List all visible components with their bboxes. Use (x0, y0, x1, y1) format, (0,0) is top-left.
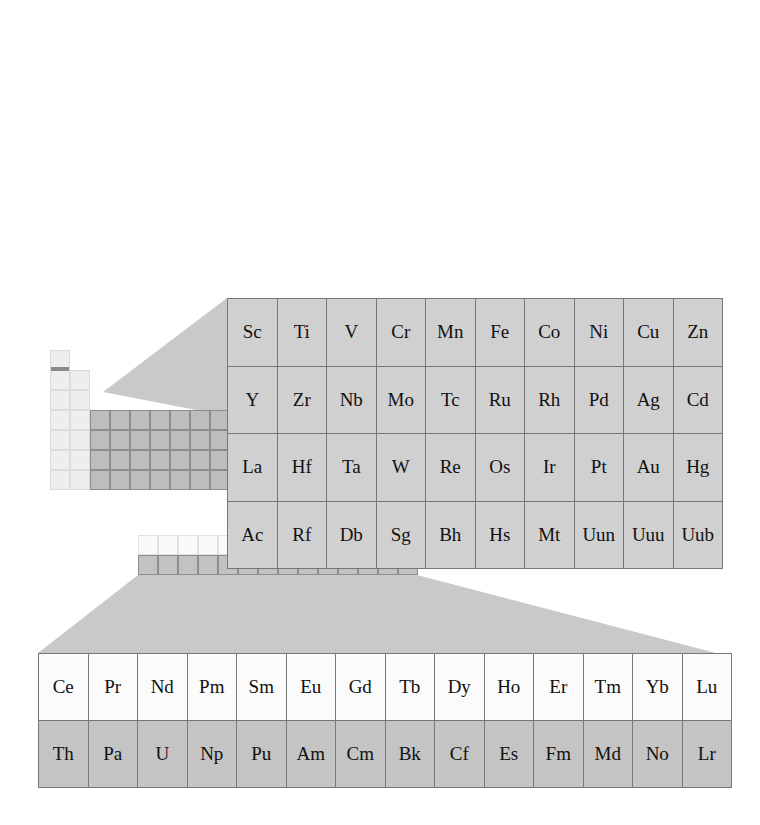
mini-cell-dblock[interactable] (130, 470, 150, 490)
detail_top-cell-ta[interactable]: Ta (327, 434, 377, 502)
detail_top-cell-sg[interactable]: Sg (376, 501, 426, 569)
mini-cell-actinide[interactable] (198, 555, 218, 575)
mini-cell-dblock[interactable] (170, 410, 190, 430)
detail_top-cell-rh[interactable]: Rh (525, 366, 575, 434)
mini-cell-dblock[interactable] (90, 430, 110, 450)
detail_bottom-cell-ho[interactable]: Ho (484, 654, 534, 721)
detail_bottom-cell-pa[interactable]: Pa (88, 721, 138, 788)
mini-cell-dblock[interactable] (90, 470, 110, 490)
mini-cell-actinide[interactable] (178, 555, 198, 575)
detail_bottom-cell-md[interactable]: Md (583, 721, 633, 788)
mini-cell-dblock[interactable] (190, 430, 210, 450)
detail_top-cell-uuu[interactable]: Uuu (624, 501, 674, 569)
detail_bottom-cell-lr[interactable]: Lr (682, 721, 732, 788)
mini-cell-lanthanide[interactable] (198, 535, 218, 555)
detail_bottom-cell-u[interactable]: U (138, 721, 188, 788)
detail_bottom-cell-cm[interactable]: Cm (336, 721, 386, 788)
detail_top-cell-os[interactable]: Os (475, 434, 525, 502)
detail_top-cell-w[interactable]: W (376, 434, 426, 502)
mini-cell-group2[interactable] (70, 470, 90, 490)
mini-cell-group1[interactable] (50, 370, 70, 390)
mini-cell-lanthanide[interactable] (178, 535, 198, 555)
detail_bottom-cell-tb[interactable]: Tb (385, 654, 435, 721)
mini-cell-dblock[interactable] (150, 410, 170, 430)
detail_bottom-cell-lu[interactable]: Lu (682, 654, 732, 721)
detail_top-cell-au[interactable]: Au (624, 434, 674, 502)
detail_top-cell-mo[interactable]: Mo (376, 366, 426, 434)
detail_top-cell-zr[interactable]: Zr (277, 366, 327, 434)
detail_top-cell-ag[interactable]: Ag (624, 366, 674, 434)
mini-cell-dblock[interactable] (130, 450, 150, 470)
mini-cell-dblock[interactable] (170, 470, 190, 490)
mini-cell-actinide[interactable] (158, 555, 178, 575)
detail_top-cell-y[interactable]: Y (228, 366, 278, 434)
mini-cell-group2[interactable] (70, 410, 90, 430)
detail_top-cell-db[interactable]: Db (327, 501, 377, 569)
mini-cell-dblock[interactable] (150, 470, 170, 490)
detail_top-cell-ti[interactable]: Ti (277, 299, 327, 367)
detail_bottom-cell-tm[interactable]: Tm (583, 654, 633, 721)
detail_top-cell-ac[interactable]: Ac (228, 501, 278, 569)
mini-cell-group2[interactable] (70, 370, 90, 390)
detail_top-cell-cr[interactable]: Cr (376, 299, 426, 367)
detail_bottom-cell-pm[interactable]: Pm (187, 654, 237, 721)
detail_top-cell-bh[interactable]: Bh (426, 501, 476, 569)
detail_top-cell-v[interactable]: V (327, 299, 377, 367)
detail_bottom-cell-sm[interactable]: Sm (237, 654, 287, 721)
mini-cell-group1[interactable] (50, 410, 70, 430)
mini-cell-dblock[interactable] (110, 430, 130, 450)
detail_bottom-cell-cf[interactable]: Cf (435, 721, 485, 788)
detail_bottom-cell-ce[interactable]: Ce (39, 654, 89, 721)
detail_bottom-cell-no[interactable]: No (633, 721, 683, 788)
mini-cell-dblock[interactable] (190, 470, 210, 490)
detail_top-cell-ir[interactable]: Ir (525, 434, 575, 502)
detail_bottom-cell-pr[interactable]: Pr (88, 654, 138, 721)
detail_top-cell-uun[interactable]: Uun (574, 501, 624, 569)
detail_top-cell-cd[interactable]: Cd (673, 366, 723, 434)
detail_bottom-cell-es[interactable]: Es (484, 721, 534, 788)
mini-cell-dblock[interactable] (110, 450, 130, 470)
mini-cell-group1[interactable] (50, 430, 70, 450)
mini-cell-dblock[interactable] (110, 410, 130, 430)
mini-cell-dblock[interactable] (130, 430, 150, 450)
mini-cell-dblock[interactable] (190, 410, 210, 430)
detail_top-cell-hg[interactable]: Hg (673, 434, 723, 502)
detail_bottom-cell-bk[interactable]: Bk (385, 721, 435, 788)
mini-cell-dblock[interactable] (130, 410, 150, 430)
detail_bottom-cell-fm[interactable]: Fm (534, 721, 584, 788)
detail_top-cell-co[interactable]: Co (525, 299, 575, 367)
detail_bottom-cell-np[interactable]: Np (187, 721, 237, 788)
mini-cell-actinide[interactable] (138, 555, 158, 575)
detail_top-cell-mn[interactable]: Mn (426, 299, 476, 367)
detail_bottom-cell-dy[interactable]: Dy (435, 654, 485, 721)
mini-cell-group1[interactable] (50, 390, 70, 410)
detail_top-cell-sc[interactable]: Sc (228, 299, 278, 367)
mini-cell-group2[interactable] (70, 390, 90, 410)
mini-cell-dblock[interactable] (170, 450, 190, 470)
detail_top-cell-uub[interactable]: Uub (673, 501, 723, 569)
mini-cell-dblock[interactable] (170, 430, 190, 450)
detail_bottom-cell-eu[interactable]: Eu (286, 654, 336, 721)
mini-cell-dblock[interactable] (90, 450, 110, 470)
mini-cell-lanthanide[interactable] (138, 535, 158, 555)
mini-cell-lanthanide[interactable] (158, 535, 178, 555)
detail_top-cell-hf[interactable]: Hf (277, 434, 327, 502)
detail_top-cell-pd[interactable]: Pd (574, 366, 624, 434)
mini-cell-dblock[interactable] (110, 470, 130, 490)
mini-cell-dblock[interactable] (150, 450, 170, 470)
detail_top-cell-rf[interactable]: Rf (277, 501, 327, 569)
detail_top-cell-re[interactable]: Re (426, 434, 476, 502)
detail_bottom-cell-th[interactable]: Th (39, 721, 89, 788)
mini-cell-group2[interactable] (70, 450, 90, 470)
detail_top-cell-cu[interactable]: Cu (624, 299, 674, 367)
detail_top-cell-hs[interactable]: Hs (475, 501, 525, 569)
detail_top-cell-tc[interactable]: Tc (426, 366, 476, 434)
mini-cell-dblock[interactable] (150, 430, 170, 450)
detail_top-cell-ni[interactable]: Ni (574, 299, 624, 367)
detail_bottom-cell-nd[interactable]: Nd (138, 654, 188, 721)
detail_bottom-cell-er[interactable]: Er (534, 654, 584, 721)
detail_top-cell-ru[interactable]: Ru (475, 366, 525, 434)
detail_top-cell-fe[interactable]: Fe (475, 299, 525, 367)
detail_top-cell-mt[interactable]: Mt (525, 501, 575, 569)
detail_top-cell-pt[interactable]: Pt (574, 434, 624, 502)
